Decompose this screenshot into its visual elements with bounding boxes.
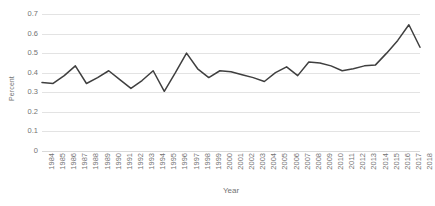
y-tick-label: 0.2 [28, 108, 38, 116]
y-tick-label: 0.6 [28, 30, 38, 38]
x-tick-label: 1993 [147, 153, 157, 186]
x-tick-label: 1988 [91, 153, 101, 186]
x-tick-label: 1984 [47, 153, 57, 186]
x-tick-label: 2015 [392, 153, 402, 186]
x-tick-label: 1989 [103, 153, 113, 186]
x-tick-label: 2008 [314, 153, 324, 186]
y-tick-label: 0 [34, 147, 38, 155]
x-tick-label: 1999 [214, 153, 224, 186]
y-tick-label: 0.7 [28, 10, 38, 18]
x-tick-label: 2000 [225, 153, 235, 186]
x-tick-label: 1996 [180, 153, 190, 186]
x-tick-label: 2005 [280, 153, 290, 186]
x-tick-label: 1994 [158, 153, 168, 186]
x-tick-label: 2010 [336, 153, 346, 186]
x-tick-label: 1987 [80, 153, 90, 186]
y-axis-title-label: Percent [8, 76, 15, 101]
x-axis-tick-labels: 1984198519861987198819891990199119921993… [42, 152, 420, 185]
plot-area [42, 14, 420, 151]
x-tick-label: 1991 [125, 153, 135, 186]
x-tick-label: 2002 [247, 153, 257, 186]
x-tick-label: 2003 [258, 153, 268, 186]
x-tick-label: 1995 [169, 153, 179, 186]
x-tick-label: 2006 [292, 153, 302, 186]
x-tick-label: 2012 [358, 153, 368, 186]
series-polyline [42, 25, 420, 92]
x-tick-label: 2011 [347, 153, 357, 186]
y-tick-label: 0.5 [28, 49, 38, 57]
x-tick-label: 2017 [414, 153, 424, 186]
x-tick-label: 2016 [403, 153, 413, 186]
x-tick-label: 2007 [303, 153, 313, 186]
y-axis-tick-labels: 0.70.60.50.40.30.20.10 [16, 14, 40, 151]
x-tick-label: 1998 [203, 153, 213, 186]
x-tick-label: 2018 [425, 153, 435, 186]
x-axis-title-label: Year [223, 186, 239, 195]
x-axis-title: Year [42, 186, 420, 195]
y-tick-label: 0.1 [28, 128, 38, 136]
y-tick-label: 0.4 [28, 69, 38, 77]
x-tick-label: 2013 [369, 153, 379, 186]
x-tick-label: 1990 [114, 153, 124, 186]
x-tick-label: 2009 [325, 153, 335, 186]
x-tick-label: 1986 [69, 153, 79, 186]
y-tick-label: 0.3 [28, 89, 38, 97]
x-tick-label: 1985 [58, 153, 68, 186]
x-tick-label: 2001 [236, 153, 246, 186]
data-series-line [42, 14, 420, 151]
x-tick-label: 2014 [381, 153, 391, 186]
x-tick-label: 1992 [136, 153, 146, 186]
x-tick-label: 2004 [269, 153, 279, 186]
x-tick-label: 1997 [192, 153, 202, 186]
